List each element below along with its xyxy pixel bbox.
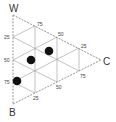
tick-left-50: 50	[4, 57, 10, 63]
tick-top-50: 50	[58, 31, 64, 37]
grid-lines	[13, 26, 79, 93]
tick-top-75: 75	[37, 21, 43, 27]
vertex-label-c: C	[103, 56, 110, 67]
tick-top-25: 25	[81, 43, 87, 49]
data-points	[13, 47, 54, 86]
tick-bottom-25: 25	[33, 95, 39, 101]
tick-bottom-50: 50	[56, 84, 62, 90]
tick-left-25: 25	[4, 34, 10, 40]
vertex-label-w: W	[9, 3, 19, 14]
ternary-diagram: W B C 25 50 75 75 50 25 25 50 75	[0, 0, 116, 122]
data-point	[13, 77, 22, 86]
data-point	[27, 56, 36, 65]
tick-left-75: 75	[4, 79, 10, 85]
tick-bottom-75: 75	[80, 73, 86, 79]
vertex-label-b: B	[9, 107, 16, 118]
data-point	[45, 47, 54, 56]
